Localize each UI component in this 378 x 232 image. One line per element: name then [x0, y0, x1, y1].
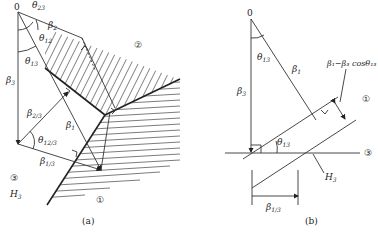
- theta23-label: θ23: [32, 0, 45, 11]
- region-1-label: ①: [362, 94, 370, 104]
- diagram-canvas: 0 θ23 β2 θ12 θ13 β3 ② β2/3 β1 θ12/3 β1/3…: [0, 0, 378, 232]
- beta1-label: β1: [291, 64, 301, 75]
- region-2-label: ②: [134, 40, 142, 50]
- distance-arrow: [335, 103, 345, 119]
- beta13-vector: [18, 144, 101, 170]
- beta13-label: β1/3: [265, 202, 281, 213]
- interface-1-3: [47, 115, 105, 205]
- panel-a: 0 θ23 β2 θ12 θ13 β3 ② β2/3 β1 θ12/3 β1/3…: [5, 0, 212, 226]
- beta1-label: β1: [65, 120, 75, 131]
- beta1-vector: [18, 12, 101, 170]
- beta3-label: β3: [236, 86, 246, 97]
- region-3-label: ③: [10, 173, 18, 183]
- theta12-arc: [36, 20, 38, 30]
- right-angle-mark: [321, 110, 328, 114]
- theta13-label: θ13: [25, 56, 38, 67]
- theta13-lower-label: θ13: [277, 137, 290, 148]
- formula-label: β₁−β₃ cosθ₁₃: [326, 59, 377, 68]
- beta1-vector: [251, 19, 316, 120]
- interface-1-upper: [243, 97, 338, 159]
- theta123-arc: [30, 131, 35, 149]
- caption-a: (a): [82, 216, 94, 226]
- origin-label: 0: [14, 2, 20, 12]
- beta23-label: β2/3: [26, 108, 42, 119]
- formula-leader: [340, 69, 346, 102]
- beta2-label: β2: [47, 20, 57, 31]
- beta3-label: β3: [5, 75, 15, 86]
- region-3-label: ③: [364, 148, 372, 158]
- theta123-label: θ12/3: [38, 135, 57, 146]
- projection-line: [101, 112, 110, 170]
- origin-label: 0: [247, 8, 253, 18]
- right-angle-mark: [251, 145, 261, 153]
- interface-1-2: [105, 79, 180, 115]
- theta13-arc: [18, 46, 36, 52]
- theta13-label: θ13: [257, 52, 270, 63]
- interface-1-lower: [252, 120, 356, 188]
- H3-leader: [313, 154, 324, 173]
- H3-label: H3: [324, 172, 337, 183]
- theta12-label: θ12: [39, 33, 52, 44]
- beta13-label: β1/3: [39, 156, 55, 167]
- H3-label: H3: [9, 189, 22, 200]
- panel-b: 0 θ13 β1 β3 β₁−β₃ cosθ₁₃ ① θ13 ③ H3 β1/3…: [225, 8, 377, 226]
- right-angle-mark: [72, 150, 77, 157]
- caption-b: (b): [305, 216, 318, 226]
- region-1-label: ①: [96, 195, 104, 205]
